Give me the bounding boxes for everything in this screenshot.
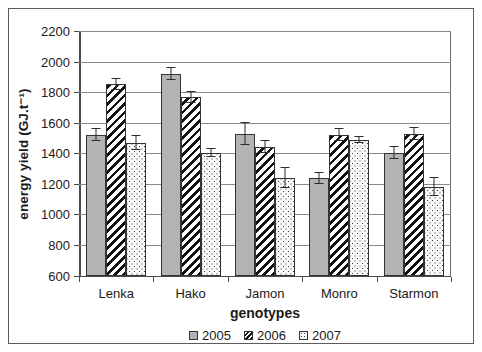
x-tick-label: Starmon — [389, 286, 438, 301]
error-bar-cap-top — [206, 148, 215, 149]
bar — [275, 178, 295, 276]
bar — [309, 178, 329, 275]
error-bar-cap-top — [112, 78, 121, 79]
x-tick-label: Monro — [321, 286, 358, 301]
bar — [126, 143, 146, 275]
error-bar-cap-top — [315, 172, 324, 173]
bar — [201, 153, 221, 275]
error-bar-cap-top — [92, 128, 101, 129]
x-tick-mark — [153, 277, 154, 282]
legend-label: 2005 — [202, 328, 231, 343]
x-tick-label: Hako — [175, 286, 205, 301]
x-tick-mark — [451, 277, 452, 282]
bar — [349, 140, 369, 275]
bar — [106, 84, 126, 275]
x-tick-mark — [302, 277, 303, 282]
bar-group — [79, 31, 153, 276]
x-tick-mark — [79, 277, 80, 282]
y-tick-label: 2200 — [41, 24, 70, 39]
x-axis-line — [79, 276, 451, 278]
y-tick-label: 2000 — [41, 54, 70, 69]
error-bar-cap-top — [132, 135, 141, 136]
bar — [235, 134, 255, 275]
error-bar-cap-top — [260, 140, 269, 141]
bar — [404, 134, 424, 275]
bar-group — [153, 31, 227, 276]
error-bar-cap-top — [240, 122, 249, 123]
bar — [384, 153, 404, 275]
legend-label: 2006 — [257, 328, 286, 343]
chart-figure: energy yield (GJ.t⁻¹) 600800100012001400… — [8, 8, 474, 344]
legend-item[interactable]: 2005 — [189, 328, 231, 343]
bar — [329, 135, 349, 276]
x-tick-label: Lenka — [98, 286, 133, 301]
legend-swatch-icon — [189, 331, 198, 340]
y-tick-label: 1400 — [41, 146, 70, 161]
y-tick-label: 1600 — [41, 115, 70, 130]
legend-item[interactable]: 2006 — [244, 328, 286, 343]
bar-group — [302, 31, 376, 276]
error-bar-cap-top — [409, 127, 418, 128]
bar — [424, 187, 444, 276]
error-bar-cap-top — [186, 91, 195, 92]
error-bar-cap-top — [166, 67, 175, 68]
bar — [181, 97, 201, 275]
x-tick-mark — [228, 277, 229, 282]
y-tick-label: 800 — [48, 237, 70, 252]
legend-item[interactable]: 2007 — [299, 328, 341, 343]
bar — [255, 147, 275, 275]
error-bar-cap-top — [429, 177, 438, 178]
y-tick-label: 1000 — [41, 207, 70, 222]
chart-legend: 200520062007 — [79, 328, 451, 343]
x-tick-mark — [377, 277, 378, 282]
legend-label: 2007 — [312, 328, 341, 343]
bar — [86, 135, 106, 276]
bar — [161, 74, 181, 276]
y-axis-title: energy yield (GJ.t⁻¹) — [13, 31, 33, 277]
y-tick-label: 1800 — [41, 85, 70, 100]
legend-swatch-icon — [244, 331, 253, 340]
x-axis-title: genotypes — [79, 305, 451, 321]
error-bar-cap-top — [280, 167, 289, 168]
bar-group — [377, 31, 451, 276]
y-tick-label: 1200 — [41, 176, 70, 191]
error-bar-cap-top — [389, 146, 398, 147]
error-bar-cap-top — [355, 136, 364, 137]
bar-group — [228, 31, 302, 276]
legend-swatch-icon — [299, 331, 308, 340]
error-bar-cap-top — [335, 128, 344, 129]
y-tick-label: 600 — [48, 268, 70, 283]
plot-area: 6008001000120014001600180020002200 Lenka… — [79, 31, 451, 277]
x-tick-label: Jamon — [245, 286, 284, 301]
